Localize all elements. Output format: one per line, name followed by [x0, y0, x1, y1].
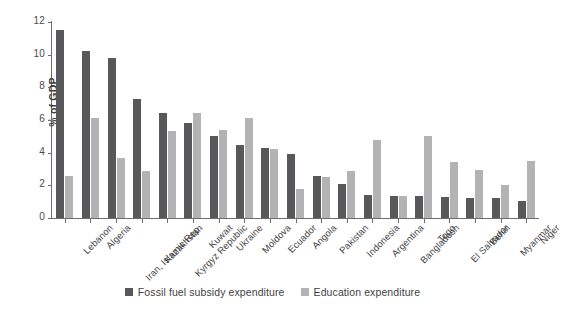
bar [313, 176, 321, 218]
bar-group [133, 22, 150, 218]
bar [364, 195, 372, 218]
x-tick-mark [219, 219, 220, 223]
bar [56, 30, 64, 218]
bar [236, 145, 244, 218]
y-tick-label: 10 [33, 48, 45, 59]
x-tick-mark [142, 219, 143, 223]
x-tick-mark [90, 219, 91, 223]
bar [91, 118, 99, 218]
y-tick-label: 12 [33, 15, 45, 26]
bar [184, 123, 192, 218]
bar [492, 198, 500, 218]
bar [108, 58, 116, 218]
x-tick-mark [65, 219, 66, 223]
x-tick-mark [270, 219, 271, 223]
x-tick-mark [167, 219, 168, 223]
x-tick-mark [116, 219, 117, 223]
bar [210, 136, 218, 218]
bar-group [261, 22, 278, 218]
bar [159, 113, 167, 218]
legend-label: Fossil fuel subsidy expenditure [138, 286, 285, 298]
bar-group [236, 22, 253, 218]
bar-group [441, 22, 458, 218]
x-axis-label: Kazakhstan [161, 222, 204, 265]
bar-group [390, 22, 407, 218]
bar [82, 51, 90, 218]
legend-item: Fossil fuel subsidy expenditure [125, 286, 285, 298]
legend-swatch-icon [125, 288, 133, 296]
bar-group [108, 22, 125, 218]
bar [415, 196, 423, 218]
bar [133, 99, 141, 218]
y-tick-label: 6 [39, 113, 45, 124]
bar [296, 189, 304, 218]
x-tick-mark [244, 219, 245, 223]
bar [261, 148, 269, 218]
y-tick-label: 2 [39, 178, 45, 189]
bar [65, 176, 73, 218]
legend-label: Education expenditure [314, 286, 421, 298]
bar [475, 170, 483, 218]
bar [527, 161, 535, 218]
x-axis-label: Benin [487, 222, 512, 247]
x-tick-mark [475, 219, 476, 223]
bar [193, 113, 201, 218]
caption-sliver [0, 319, 545, 323]
bar [518, 201, 526, 218]
bar [450, 162, 458, 218]
bar-group [210, 22, 227, 218]
bar [219, 130, 227, 218]
bar-group [338, 22, 355, 218]
plot-area [52, 22, 539, 218]
bar [142, 171, 150, 218]
bar [270, 149, 278, 218]
bar-group [518, 22, 535, 218]
bar-group [415, 22, 432, 218]
chart-legend: Fossil fuel subsidy expenditureEducation… [0, 286, 545, 298]
x-tick-mark [347, 219, 348, 223]
y-tick-label: 8 [39, 80, 45, 91]
x-tick-mark [424, 219, 425, 223]
bar-group [159, 22, 176, 218]
bar [390, 196, 398, 218]
bar-group [466, 22, 483, 218]
bar [501, 185, 509, 218]
bar-group [82, 22, 99, 218]
bar [168, 131, 176, 218]
bar [399, 196, 407, 218]
x-tick-mark [372, 219, 373, 223]
legend-item: Education expenditure [301, 286, 421, 298]
bar [245, 118, 253, 218]
x-tick-mark [296, 219, 297, 223]
bar [441, 197, 449, 218]
bar-group [364, 22, 381, 218]
bar-group [184, 22, 201, 218]
bar-group [287, 22, 304, 218]
bar [373, 140, 381, 218]
y-tick-label: 0 [39, 211, 45, 222]
x-tick-mark [321, 219, 322, 223]
bar [466, 198, 474, 218]
x-tick-mark [526, 219, 527, 223]
bar [338, 184, 346, 218]
bar [287, 154, 295, 218]
bar-group [56, 22, 73, 218]
x-tick-mark [398, 219, 399, 223]
bar [424, 136, 432, 218]
y-tick-label: 4 [39, 146, 45, 157]
bar [347, 171, 355, 218]
bar-group [313, 22, 330, 218]
bar [117, 158, 125, 218]
bar-group [492, 22, 509, 218]
legend-swatch-icon [301, 288, 309, 296]
bar [322, 177, 330, 218]
